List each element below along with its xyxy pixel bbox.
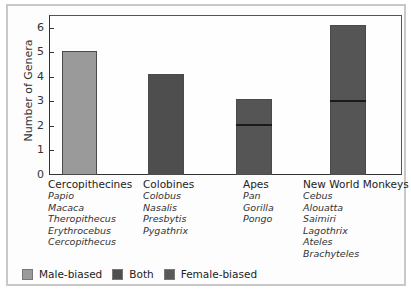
genus-label: Alouatta — [303, 202, 409, 214]
legend-swatch — [22, 269, 33, 280]
y-tick-mark — [49, 77, 54, 78]
genus-label: Cebus — [303, 190, 409, 202]
y-tick-label: 0 — [34, 168, 44, 181]
category-name: Cercopithecines — [48, 178, 132, 190]
genus-label: Gorilla — [243, 202, 274, 214]
y-tick-mark — [49, 101, 54, 102]
genus-label: Ateles — [303, 236, 409, 248]
y-tick-label: 6 — [34, 21, 44, 34]
category-new-world-monkeys: New World Monkeys Cebus Alouatta Saimiri… — [303, 178, 409, 259]
y-tick-label: 4 — [34, 70, 44, 83]
genus-label: Brachyteles — [303, 248, 409, 260]
y-tick-mark — [49, 28, 54, 29]
legend-label: Both — [129, 268, 153, 280]
genus-label: Lagothrix — [303, 225, 409, 237]
legend-label: Female-biased — [181, 268, 257, 280]
category-name: Colobines — [143, 178, 194, 190]
category-cercopithecines: Cercopithecines Papio Macaca Theropithec… — [48, 178, 132, 248]
legend-label: Male-biased — [39, 268, 102, 280]
category-apes: Apes Pan Gorilla Pongo — [243, 178, 274, 225]
genus-label: Papio — [48, 190, 132, 202]
genus-label: Presbytis — [143, 213, 194, 225]
bar-colobines-both — [148, 74, 184, 175]
y-tick-mark — [49, 126, 54, 127]
bar-segment-divider — [330, 100, 366, 102]
category-name: New World Monkeys — [303, 178, 409, 190]
y-tick-label: 3 — [34, 94, 44, 107]
category-name: Apes — [243, 178, 274, 190]
y-tick-label: 5 — [34, 45, 44, 58]
genus-label: Colobus — [143, 190, 194, 202]
bar-segment-divider — [236, 124, 272, 126]
genus-label: Cercopithecus — [48, 236, 132, 248]
legend: Male-biased Both Female-biased — [22, 268, 267, 280]
bar-cercopithecines-male-biased — [62, 51, 97, 175]
genus-label: Pygathrix — [143, 225, 194, 237]
category-colobines: Colobines Colobus Nasalis Presbytis Pyga… — [143, 178, 194, 236]
y-tick-label: 1 — [34, 143, 44, 156]
legend-item-male-biased: Male-biased — [22, 268, 102, 280]
genus-label: Macaca — [48, 202, 132, 214]
legend-swatch — [164, 269, 175, 280]
genus-label: Theropithecus — [48, 213, 132, 225]
y-tick-mark — [49, 52, 54, 53]
genus-label: Pan — [243, 190, 274, 202]
y-tick-label: 2 — [34, 119, 44, 132]
legend-item-female-biased: Female-biased — [164, 268, 257, 280]
bar-apes — [236, 99, 272, 175]
genus-label: Pongo — [243, 213, 274, 225]
y-tick-mark — [49, 150, 54, 151]
genus-label: Nasalis — [143, 202, 194, 214]
genus-label: Erythrocebus — [48, 225, 132, 237]
legend-swatch — [112, 269, 123, 280]
genus-label: Saimiri — [303, 213, 409, 225]
legend-item-both: Both — [112, 268, 153, 280]
y-axis-label: Number of Genera — [22, 42, 35, 142]
